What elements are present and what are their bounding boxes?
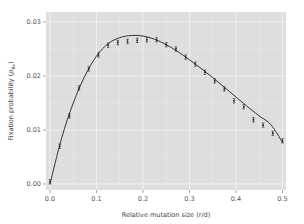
x-tick-label: 0.1 [91,195,101,203]
x-tick-label: 0.2 [138,195,148,203]
x-tick-label: 0.4 [231,195,241,203]
y-axis-label: Fixation probability (pfix) [7,62,16,141]
chart: 0.00.10.20.30.40.50.000.010.020.03 Relat… [0,0,304,224]
x-tick-label: 0.0 [45,195,55,203]
y-tick-label: 0.01 [27,126,41,134]
y-tick-label: 0.02 [27,72,41,80]
x-tick-label: 0.3 [184,195,194,203]
plot-panel [46,12,286,190]
y-tick-label: 0.00 [27,180,41,188]
x-tick-label: 0.5 [277,195,287,203]
x-axis-label: Relative mutation size (r/d) [122,211,211,219]
y-tick-label: 0.03 [27,18,41,26]
